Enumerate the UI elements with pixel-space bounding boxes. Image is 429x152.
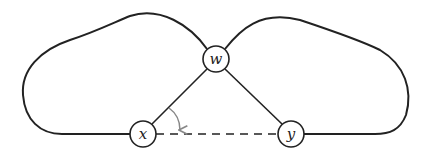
diagram-canvas: w x y [0, 0, 429, 152]
rotation-arrow-icon [169, 108, 180, 130]
left-loop-edge [23, 13, 207, 134]
node-x-label: x [139, 125, 148, 143]
node-y-label: y [286, 125, 296, 143]
node-w-label: w [210, 50, 223, 68]
node-y: y [278, 121, 304, 147]
edge-w-x [152, 69, 207, 124]
right-loop-edge [225, 17, 408, 134]
edge-w-y [225, 69, 282, 124]
node-x: x [130, 121, 156, 147]
node-w: w [203, 46, 229, 72]
